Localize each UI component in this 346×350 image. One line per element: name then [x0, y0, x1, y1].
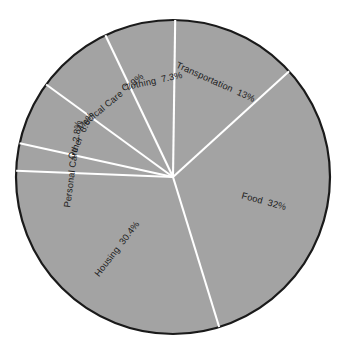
- pie-chart-canvas: Clothing 7.3%Medical Care 7.9%Other 6.6%…: [0, 0, 346, 350]
- pie-chart-figure: Clothing 7.3%Medical Care 7.9%Other 6.6%…: [0, 0, 346, 350]
